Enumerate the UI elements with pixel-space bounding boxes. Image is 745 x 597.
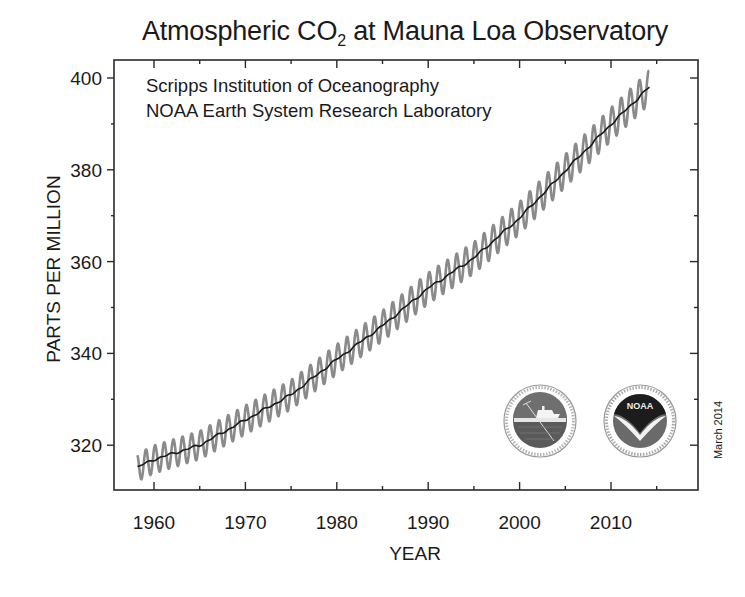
x-tick-labels: 196019701980199020002010 [133,512,632,533]
y-tick-labels: 320340360380400 [70,68,102,456]
x-tick-label: 1970 [224,512,266,533]
x-tick-label: 1960 [133,512,175,533]
y-axis-label: PARTS PER MILLION [43,169,65,369]
credit-scripps: Scripps Institution of Oceanography [146,75,439,97]
noaa-logo: NOAA [604,385,676,457]
y-tick-label: 400 [70,68,102,89]
x-tick-label: 2000 [498,512,540,533]
credit-noaa: NOAA Earth System Research Laboratory [146,100,491,122]
x-tick-label: 1980 [316,512,358,533]
x-axis-label: YEAR [340,543,490,565]
scripps-logo [504,385,576,457]
y-tick-label: 340 [70,343,102,364]
y-tick-label: 360 [70,252,102,273]
noaa-logo-text: NOAA [627,401,654,411]
x-tick-label: 1990 [407,512,449,533]
date-stamp: March 2014 [712,380,724,480]
co2-chart: Atmospheric CO2 at Mauna Loa Observatory… [0,0,745,597]
y-tick-label: 380 [70,160,102,181]
y-tick-label: 320 [70,435,102,456]
x-tick-label: 2010 [590,512,632,533]
